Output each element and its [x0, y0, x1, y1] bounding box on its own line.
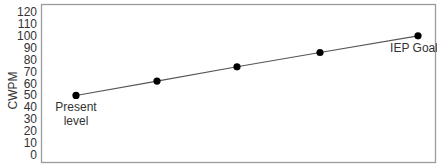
y-tick-label: 10: [24, 136, 38, 150]
y-axis-tick-labels: 0102030405060708090100110120: [17, 5, 37, 162]
chart: CWPM 0102030405060708090100110120 Presen…: [0, 0, 437, 165]
y-tick-label: 50: [24, 88, 38, 102]
y-tick-label: 80: [24, 53, 38, 67]
data-point-3: [233, 63, 240, 70]
y-tick-label: 60: [24, 77, 38, 91]
y-tick-label: 0: [30, 148, 37, 162]
data-point-1: [72, 92, 79, 99]
y-axis-title: CWPM: [6, 72, 20, 110]
y-tick-label: 30: [24, 112, 38, 126]
data-point-2: [153, 78, 160, 85]
data-point-5: [414, 32, 421, 39]
plot-frame: [42, 5, 436, 163]
line-chart: CWPM 0102030405060708090100110120 Presen…: [0, 0, 437, 165]
y-tick-label: 20: [24, 124, 38, 138]
y-tick-label: 70: [24, 65, 38, 79]
y-tick-label: 120: [17, 5, 37, 19]
y-tick-label: 100: [17, 29, 37, 43]
data-point-4: [316, 49, 323, 56]
annotation-label: Present: [55, 100, 97, 114]
y-tick-label: 40: [24, 100, 38, 114]
annotation-label: IEP Goal: [390, 41, 437, 55]
y-tick-label: 110: [18, 17, 37, 31]
annotation-label: level: [64, 114, 89, 128]
y-axis-label: CWPM: [6, 72, 20, 110]
y-tick-label: 90: [24, 41, 38, 55]
